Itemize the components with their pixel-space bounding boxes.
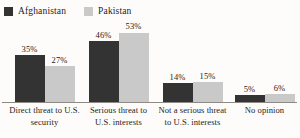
legend-entry-afghanistan: Afghanistan — [4, 6, 66, 16]
bar-value-label: 35% — [22, 45, 38, 54]
bar-rect[interactable] — [15, 55, 45, 102]
bar-group: 5%6% — [235, 22, 295, 102]
category-label-line: to U.S. interests — [156, 117, 230, 129]
category-label-line: U.S. interests — [82, 117, 156, 129]
bar-value-label: 53% — [126, 22, 142, 31]
bar-item[interactable]: 5% — [235, 22, 265, 102]
category-label-line: Serious threat to — [82, 105, 156, 117]
legend-entry-pakistan: Pakistan — [84, 6, 131, 16]
x-axis-category-labels: Direct threat to U.S.securitySerious thr… — [0, 105, 299, 138]
bar-rect[interactable] — [265, 94, 295, 102]
category-label-line: No opinion — [228, 105, 300, 117]
bar-value-label: 6% — [274, 84, 286, 93]
bar-rect[interactable] — [89, 41, 119, 102]
plot-area: 35%27%46%53%14%15%5%6% — [0, 22, 299, 103]
bar-group-bars: 35%27% — [15, 22, 75, 102]
legend-label-afghanistan: Afghanistan — [18, 6, 66, 16]
bar-rect[interactable] — [193, 82, 223, 102]
bar-value-label: 15% — [200, 72, 216, 81]
bar-value-label: 5% — [244, 85, 256, 94]
bar-item[interactable]: 46% — [89, 22, 119, 102]
bar-item[interactable]: 15% — [193, 22, 223, 102]
x-axis-baseline — [2, 102, 297, 103]
bar-group: 14%15% — [163, 22, 223, 102]
category-label: No opinion — [228, 105, 300, 117]
bar-rect[interactable] — [163, 83, 193, 102]
category-label-line: Direct threat to U.S. — [8, 105, 82, 117]
category-label-line: security — [8, 117, 82, 129]
bar-rect[interactable] — [235, 95, 265, 102]
bar-item[interactable]: 27% — [45, 22, 75, 102]
bar-value-label: 27% — [52, 56, 68, 65]
category-label: Direct threat to U.S.security — [8, 105, 82, 128]
bar-item[interactable]: 14% — [163, 22, 193, 102]
category-label: Serious threat toU.S. interests — [82, 105, 156, 128]
legend-swatch-square-icon — [4, 7, 13, 16]
bar-chart: Afghanistan Pakistan 35%27%46%53%14%15%5… — [0, 0, 299, 138]
bar-item[interactable]: 6% — [265, 22, 295, 102]
bar-value-label: 46% — [96, 31, 112, 40]
bar-group-bars: 5%6% — [235, 22, 295, 102]
bar-rect[interactable] — [45, 66, 75, 102]
bar-item[interactable]: 53% — [119, 22, 149, 102]
category-label-line: Not a serious threat — [156, 105, 230, 117]
bar-rect[interactable] — [119, 33, 149, 103]
bar-group: 35%27% — [15, 22, 75, 102]
bar-value-label: 14% — [170, 73, 186, 82]
category-label: Not a serious threatto U.S. interests — [156, 105, 230, 128]
bar-group-bars: 46%53% — [89, 22, 149, 102]
bar-item[interactable]: 35% — [15, 22, 45, 102]
bar-group: 46%53% — [89, 22, 149, 102]
legend-label-pakistan: Pakistan — [98, 6, 131, 16]
bar-group-bars: 14%15% — [163, 22, 223, 102]
chart-legend: Afghanistan Pakistan — [4, 4, 150, 18]
legend-swatch-square-icon — [84, 7, 93, 16]
